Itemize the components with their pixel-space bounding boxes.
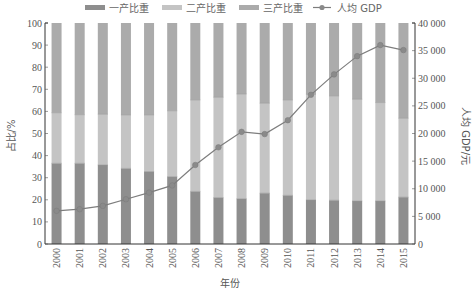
legend-item: 人均 GDP bbox=[313, 3, 382, 14]
bar-segment bbox=[398, 197, 408, 244]
x-tick-label: 2012 bbox=[329, 248, 340, 268]
y2-tick-label: 25 000 bbox=[418, 100, 446, 111]
y-tick-label: 0 bbox=[37, 239, 42, 250]
y-tick-label: 90 bbox=[32, 40, 42, 51]
x-tick-label: 2011 bbox=[305, 248, 316, 268]
bar-segment bbox=[283, 195, 293, 244]
x-tick-label: 2004 bbox=[144, 248, 155, 268]
y2-axis-title: 人均 GDP/元 bbox=[460, 107, 471, 165]
bar-stack-2011 bbox=[306, 23, 316, 244]
y2-tick-label: 20 000 bbox=[418, 128, 446, 139]
bar-segment bbox=[213, 198, 223, 244]
gdp-marker bbox=[239, 129, 245, 135]
bar-segment bbox=[52, 113, 62, 164]
bar-segment bbox=[237, 94, 247, 199]
y-axis-title: 占比/% bbox=[5, 120, 17, 153]
stacked-bar-line-chart: 一产比重二产比重三产比重人均 GDP 010203040506070809010… bbox=[0, 0, 475, 293]
gdp-marker bbox=[54, 208, 60, 214]
gdp-marker bbox=[354, 53, 360, 59]
bar-segment bbox=[52, 163, 62, 244]
bar-segment bbox=[375, 23, 385, 103]
bar-segment bbox=[306, 94, 316, 199]
bar-stack-2010 bbox=[283, 23, 293, 244]
gdp-marker bbox=[308, 92, 314, 98]
bar-segment bbox=[260, 103, 270, 193]
bar-segment bbox=[213, 23, 223, 97]
legend-swatch bbox=[239, 5, 259, 10]
bar-segment bbox=[329, 23, 339, 96]
legend: 一产比重二产比重三产比重人均 GDP bbox=[85, 2, 382, 14]
y2-tick-label: 5 000 bbox=[418, 211, 441, 222]
bar-segment bbox=[352, 99, 362, 201]
bar-segment bbox=[375, 103, 385, 201]
y-tick-label: 20 bbox=[32, 194, 42, 205]
y-tick-label: 70 bbox=[32, 84, 42, 95]
bar-stack-2004 bbox=[144, 23, 154, 244]
gdp-marker bbox=[285, 117, 291, 123]
x-tick-label: 2010 bbox=[282, 248, 293, 268]
bar-segment bbox=[306, 23, 316, 94]
gdp-marker bbox=[331, 72, 337, 78]
bar-segment bbox=[121, 168, 131, 244]
x-tick-label: 2008 bbox=[236, 248, 247, 268]
gdp-marker bbox=[100, 203, 106, 209]
y-tick-label: 80 bbox=[32, 62, 42, 73]
bar-segment bbox=[190, 100, 200, 191]
legend-swatch bbox=[85, 5, 105, 10]
bar-segment bbox=[144, 23, 154, 115]
y-tick-label: 40 bbox=[32, 150, 42, 161]
gdp-marker bbox=[146, 190, 152, 196]
gdp-marker bbox=[123, 196, 129, 202]
gdp-polyline bbox=[57, 45, 404, 211]
y-tick-label: 100 bbox=[27, 18, 42, 29]
y2-tick-label: 15 000 bbox=[418, 156, 446, 167]
bar-segment bbox=[283, 23, 293, 100]
legend-item: 一产比重 bbox=[85, 2, 149, 14]
gdp-marker bbox=[77, 206, 83, 212]
y-tick-label: 50 bbox=[32, 128, 42, 139]
y2-tick-label: 10 000 bbox=[418, 183, 446, 194]
legend-marker-icon bbox=[319, 5, 324, 10]
bar-segment bbox=[167, 23, 177, 111]
bar-segment bbox=[121, 115, 131, 168]
y-tick-label: 10 bbox=[32, 216, 42, 227]
bar-stack-2006 bbox=[190, 23, 200, 244]
legend-item: 三产比重 bbox=[239, 2, 303, 14]
bar-segment bbox=[190, 23, 200, 100]
y2-tick-label: 0 bbox=[418, 239, 423, 250]
x-tick-label: 2007 bbox=[213, 248, 224, 268]
bar-segment bbox=[75, 23, 85, 115]
y2-tick-label: 40 000 bbox=[418, 18, 446, 29]
bar-stack-2014 bbox=[375, 23, 385, 244]
bar-segment bbox=[75, 163, 85, 244]
bar-segment bbox=[352, 23, 362, 99]
bar-segment bbox=[237, 23, 247, 94]
x-tick-label: 2002 bbox=[97, 248, 108, 268]
legend-label: 一产比重 bbox=[109, 2, 149, 14]
y2-tick-label: 30 000 bbox=[418, 73, 446, 84]
bar-segment bbox=[306, 200, 316, 244]
y2-tick-label: 35 000 bbox=[418, 45, 446, 56]
bar-segment bbox=[398, 118, 408, 197]
bar-segment bbox=[398, 23, 408, 118]
x-tick-label: 2001 bbox=[74, 248, 85, 268]
bar-segment bbox=[352, 201, 362, 244]
bar-segment bbox=[260, 23, 270, 103]
bar-stack-2007 bbox=[213, 23, 223, 244]
bar-stack-2005 bbox=[167, 23, 177, 244]
x-tick-label: 2014 bbox=[375, 248, 386, 268]
bar-segment bbox=[144, 172, 154, 244]
bar-stack-2002 bbox=[98, 23, 108, 244]
x-tick-label: 2009 bbox=[259, 248, 270, 268]
legend-label: 二产比重 bbox=[186, 2, 226, 14]
x-tick-label: 2013 bbox=[352, 248, 363, 268]
gdp-marker bbox=[216, 145, 222, 151]
bar-segment bbox=[190, 191, 200, 244]
x-tick-label: 2000 bbox=[51, 248, 62, 268]
bar-segment bbox=[167, 111, 177, 177]
legend-swatch bbox=[162, 5, 182, 10]
y-tick-label: 30 bbox=[32, 172, 42, 183]
bar-stack-2015 bbox=[398, 23, 408, 244]
legend-label: 三产比重 bbox=[263, 2, 303, 14]
gdp-marker bbox=[262, 131, 268, 137]
